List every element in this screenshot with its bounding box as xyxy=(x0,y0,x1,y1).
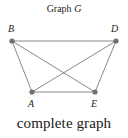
graph-caption: complete graph xyxy=(0,115,128,132)
vertex-D xyxy=(113,38,118,43)
edge-D-A xyxy=(32,41,116,92)
edge-B-E xyxy=(12,41,95,92)
vertex-labels: BDAE xyxy=(8,23,119,109)
vertex-E xyxy=(92,89,97,94)
edge-B-A xyxy=(12,41,32,92)
vertex-label-E: E xyxy=(90,98,97,109)
vertex-label-B: B xyxy=(8,23,14,34)
vertex-label-A: A xyxy=(27,98,35,109)
vertex-B xyxy=(9,38,14,43)
vertices xyxy=(9,38,118,94)
edge-D-E xyxy=(95,41,116,92)
vertex-label-D: D xyxy=(110,23,119,34)
vertex-A xyxy=(29,89,34,94)
edges xyxy=(12,41,116,92)
